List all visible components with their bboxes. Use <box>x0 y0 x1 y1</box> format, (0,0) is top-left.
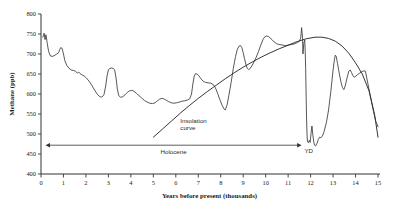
chart-canvas: 400450500550600650700750800 012345678910… <box>0 0 403 212</box>
x-axis-title: Years before present (thousands) <box>162 192 257 200</box>
insolation-curve-label: Insolation <box>180 117 207 124</box>
y-axis-tick-label: 500 <box>26 130 36 137</box>
x-axis: 0123456789101112131415 <box>39 174 381 186</box>
x-axis-tick-label: 14 <box>352 179 359 186</box>
x-axis-tick-label: 1 <box>62 179 65 186</box>
younger-dryas-label: YD <box>304 147 313 154</box>
x-axis-tick-label: 11 <box>285 179 291 186</box>
y-axis: 400450500550600650700750800 <box>26 10 41 177</box>
x-axis-tick-label: 8 <box>219 179 222 186</box>
holocene-label: Holocene <box>160 148 187 155</box>
y-axis-tick-label: 550 <box>26 110 36 117</box>
y-axis-tick-label: 650 <box>26 70 36 77</box>
y-axis-title: Methane (ppb) <box>8 72 16 115</box>
x-axis-tick-label: 4 <box>129 179 133 186</box>
x-axis-tick-label: 3 <box>107 179 110 186</box>
x-axis-tick-label: 12 <box>307 179 313 186</box>
x-axis-tick-label: 0 <box>39 179 42 186</box>
data-series-group <box>43 28 378 146</box>
y-axis-tick-label: 800 <box>26 10 36 17</box>
x-axis-tick-label: 7 <box>197 179 201 186</box>
y-axis-tick-label: 750 <box>26 30 36 37</box>
x-axis-tick-label: 2 <box>84 179 87 186</box>
x-axis-tick-label: 13 <box>330 179 336 186</box>
y-axis-tick-label: 600 <box>26 90 36 97</box>
x-axis-tick-label: 6 <box>174 179 177 186</box>
annotation-group: InsolationcurveHoloceneYD <box>45 117 313 155</box>
x-axis-tick-label: 5 <box>152 179 155 186</box>
methane-insolation-chart: 400450500550600650700750800 012345678910… <box>0 0 403 212</box>
x-axis-tick-label: 15 <box>375 179 381 186</box>
insolation-curve-label: curve <box>180 124 196 131</box>
holocene-arrow-head-left <box>45 143 50 147</box>
y-axis-tick-label: 700 <box>26 50 36 57</box>
holocene-arrow-head-right <box>297 143 302 147</box>
x-axis-tick-label: 10 <box>262 179 268 186</box>
y-axis-tick-label: 450 <box>26 150 36 157</box>
x-axis-tick-label: 9 <box>242 179 245 186</box>
methane-curve-line <box>43 28 378 146</box>
y-axis-tick-label: 400 <box>26 170 36 177</box>
